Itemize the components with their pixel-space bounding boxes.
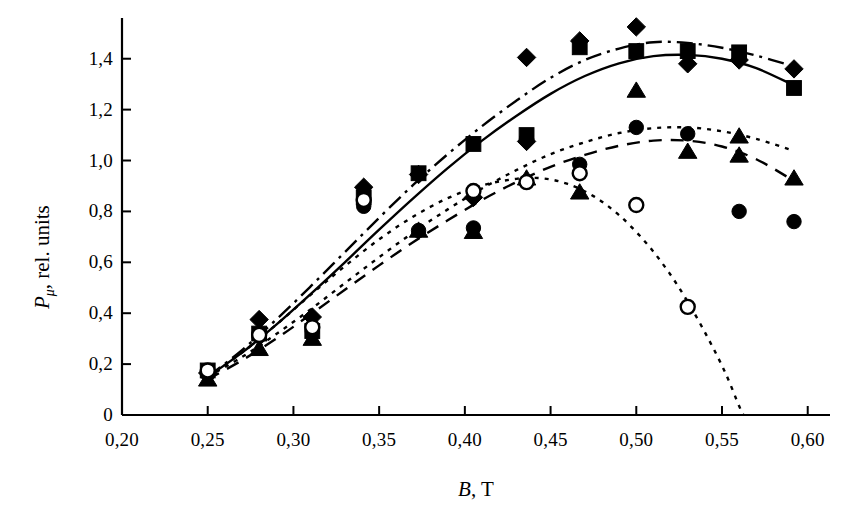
marker-circle (252, 328, 266, 342)
marker-triangle (627, 82, 645, 97)
x-tick-label: 0,50 (619, 429, 653, 451)
x-tick-label: 0,55 (705, 429, 739, 451)
chart-figure: B, T Pμ, rel. units 0,200,250,300,350,40… (0, 0, 844, 531)
marker-triangle (785, 170, 803, 185)
marker-circle (787, 214, 801, 228)
curve-solid (208, 55, 794, 377)
x-tick-label: 0,40 (448, 429, 482, 451)
marker-circle (520, 175, 534, 189)
marker-circle (201, 363, 215, 377)
y-tick-label: 1,0 (89, 150, 113, 172)
marker-square (787, 81, 802, 96)
curve-dashdot (208, 42, 794, 377)
marker-circle (732, 204, 746, 218)
curve-dotted (208, 178, 744, 415)
plot-canvas (0, 0, 844, 531)
y-tick-label: 0,2 (89, 353, 113, 375)
y-tick-label: 0,6 (89, 251, 113, 273)
y-tick-label: 0,8 (89, 200, 113, 222)
series-open-circle (208, 178, 744, 415)
x-tick-label: 0,45 (534, 429, 568, 451)
series-filled-circle (208, 127, 794, 377)
marker-circle (629, 198, 643, 212)
marker-diamond (517, 48, 535, 66)
marker-square (629, 44, 644, 59)
marker-square (680, 44, 695, 59)
marker-circle (305, 320, 319, 334)
marker-square (466, 137, 481, 152)
marker-circle (681, 300, 695, 314)
marker-triangle (679, 143, 697, 158)
x-tick-label: 0,35 (362, 429, 396, 451)
y-tick-label: 0,4 (89, 302, 113, 324)
series-filled-triangle (208, 140, 794, 379)
curve-dashed (208, 140, 794, 379)
curve-dotted (208, 127, 794, 377)
y-tick-label: 0 (103, 404, 113, 426)
x-tick-label: 0,60 (791, 429, 825, 451)
marker-diamond (785, 60, 803, 78)
marker-square (411, 166, 426, 181)
marker-circle (681, 127, 695, 141)
y-axis-title: Pμ, rel. units (30, 205, 58, 309)
marker-square (572, 40, 587, 55)
x-tick-label: 0,25 (191, 429, 225, 451)
marker-circle (466, 184, 480, 198)
x-tick-label: 0,30 (276, 429, 310, 451)
marker-circle (573, 166, 587, 180)
y-tick-label: 1,2 (89, 99, 113, 121)
marker-square (732, 45, 747, 60)
marker-circle (357, 193, 371, 207)
series-filled-square (208, 55, 794, 377)
marker-circle (519, 132, 533, 146)
y-tick-label: 1,4 (89, 48, 113, 70)
points-filled-square (200, 40, 801, 378)
marker-triangle (730, 128, 748, 143)
marker-circle (629, 120, 643, 134)
marker-diamond (627, 18, 645, 36)
x-axis-title: B, T (458, 477, 494, 502)
series-filled-diamond (208, 42, 794, 377)
x-tick-label: 0,20 (105, 429, 139, 451)
points-filled-diamond (199, 18, 804, 383)
